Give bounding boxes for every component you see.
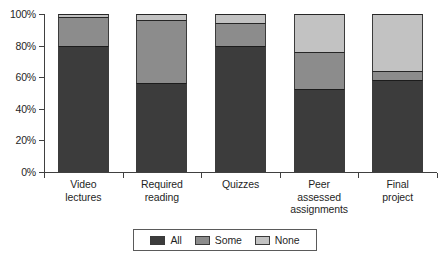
bar-quizzes[interactable] [215,14,266,172]
category-label-video-lectures: Videolectures [40,178,126,203]
bar-segment-none[interactable] [294,14,345,52]
category-label-line: assignments [276,203,362,216]
category-label-line: project [355,191,441,204]
bar-segment-all[interactable] [215,46,266,172]
category-labels: VideolecturesRequiredreadingQuizzesPeera… [44,178,437,224]
category-label-peer-assessed-assignments: Peerassessedassignments [276,178,362,216]
y-axis-tick-label: 80% [16,41,36,51]
bar-segment-all[interactable] [372,80,423,172]
bars-layer [44,14,437,172]
category-label-required-reading: Requiredreading [119,178,205,203]
legend-label: Some [215,235,242,246]
bar-segment-all[interactable] [136,83,187,172]
bar-segment-all[interactable] [294,89,345,172]
bar-required-reading[interactable] [136,14,187,172]
y-axis-tick-label: 40% [16,104,36,114]
bar-segment-some[interactable] [136,20,187,82]
y-axis-tick-label: 20% [16,135,36,145]
y-axis-tick-label: 0% [21,167,36,177]
category-label-final-project: Finalproject [355,178,441,203]
legend-item-none[interactable]: None [255,235,300,246]
y-axis-tick-label: 100% [10,9,36,19]
stacked-bar-chart: 100%80%60%40%20%0% VideolecturesRequired… [0,0,445,262]
category-label-line: Final [355,178,441,191]
legend-item-all[interactable]: All [150,235,181,246]
bar-segment-some[interactable] [372,71,423,80]
x-axis-line [44,172,437,173]
legend-swatch-none-icon [255,236,270,245]
category-label-line: Required [119,178,205,191]
legend-swatch-some-icon [195,236,210,245]
bar-segment-some[interactable] [58,17,109,45]
legend-item-some[interactable]: Some [195,235,242,246]
bar-segment-some[interactable] [294,52,345,89]
legend-swatch-all-icon [150,236,165,245]
legend-label: None [275,235,300,246]
bar-segment-none[interactable] [215,14,266,23]
category-label-line: reading [119,191,205,204]
bar-peer-assessed-assignments[interactable] [294,14,345,172]
legend-label: All [170,235,181,246]
category-label-line: Video [40,178,126,191]
category-label-line: Quizzes [198,178,284,191]
chart-legend: AllSomeNone [133,229,317,251]
category-label-line: lectures [40,191,126,204]
bar-segment-some[interactable] [215,23,266,47]
bar-segment-all[interactable] [58,46,109,172]
bar-video-lectures[interactable] [58,14,109,172]
y-axis-tick-label: 60% [16,72,36,82]
bar-segment-none[interactable] [372,14,423,71]
category-label-quizzes: Quizzes [198,178,284,191]
category-label-line: Peer [276,178,362,191]
category-label-line: assessed [276,191,362,204]
bar-final-project[interactable] [372,14,423,172]
